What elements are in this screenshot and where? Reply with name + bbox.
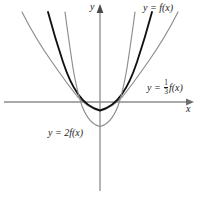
curve-label-f: y = f(x) <box>143 3 173 13</box>
curve-label-one-third-suffix: f(x) <box>169 82 183 93</box>
y-axis-arrowhead <box>97 4 104 13</box>
fraction-one-third: 13 <box>164 79 169 95</box>
y-axis-label: y <box>90 2 94 12</box>
curve-label-one-third-prefix: y = <box>147 82 163 93</box>
parabola-plot <box>0 0 201 199</box>
curve-label-one-third-f: y = 13f(x) <box>147 79 183 95</box>
x-axis-label: x <box>186 104 190 114</box>
fraction-denominator: 3 <box>164 88 169 96</box>
graph-figure: y x y = f(x) y = 13f(x) y = 2f(x) <box>0 0 201 199</box>
curve-label-two-f: y = 2f(x) <box>48 128 83 138</box>
